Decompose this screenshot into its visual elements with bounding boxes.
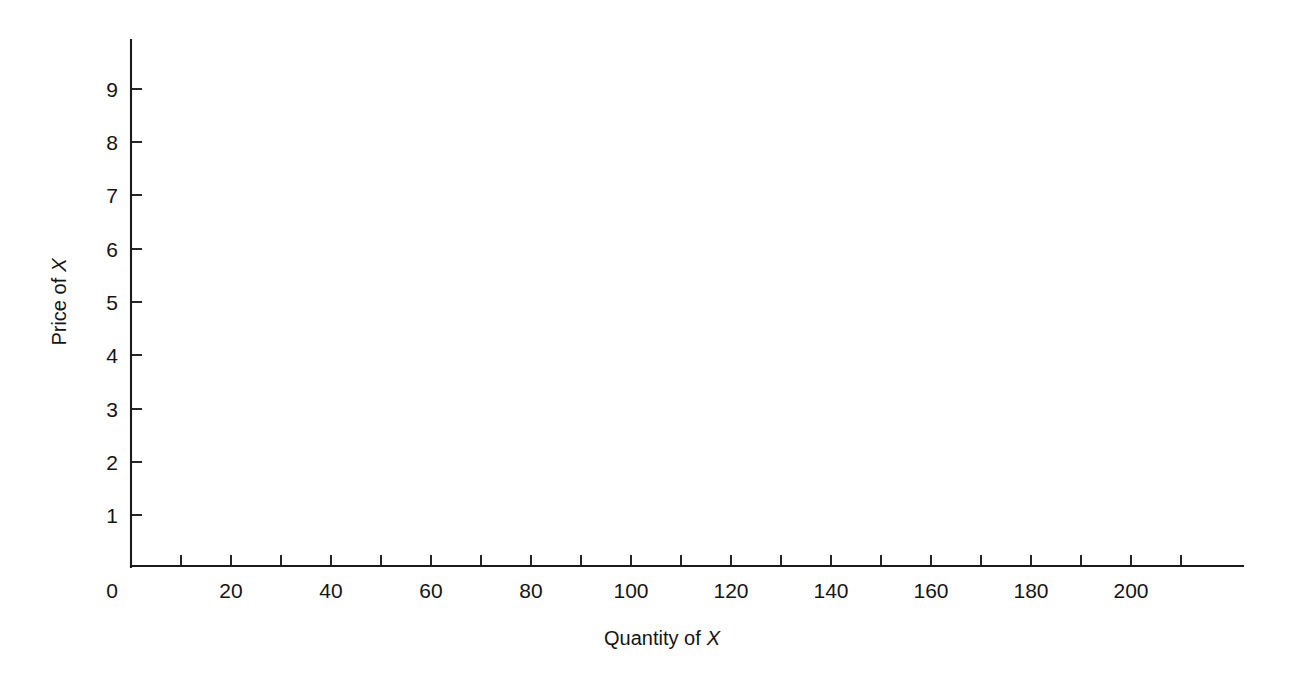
x-tick-label-160: 160 [913, 579, 948, 602]
x-tick-label-180: 180 [1013, 579, 1048, 602]
x-tick-label-140: 140 [813, 579, 848, 602]
y-tick-label-8: 8 [106, 131, 118, 154]
x-tick-label-20: 20 [219, 579, 242, 602]
x-axis-title-plain: Quantity of [604, 627, 701, 649]
chart-background [0, 0, 1300, 683]
y-tick-label-4: 4 [106, 344, 118, 367]
x-tick-label-100: 100 [613, 579, 648, 602]
y-axis-title: Price ofX [48, 258, 70, 346]
x-tick-label-60: 60 [419, 579, 442, 602]
x-tick-label-200: 200 [1113, 579, 1148, 602]
y-axis-title-text: Price ofX [48, 258, 70, 346]
y-tick-label-2: 2 [106, 451, 118, 474]
y-tick-label-1: 1 [106, 504, 118, 527]
chart-figure: 9 8 7 6 5 4 3 2 1 Price ofX [0, 0, 1300, 683]
x-tick-label-40: 40 [319, 579, 342, 602]
y-tick-label-5: 5 [106, 291, 118, 314]
x-axis-title-italic: X [706, 627, 721, 649]
x-tick-label-0: 0 [106, 579, 118, 602]
price-quantity-chart: 9 8 7 6 5 4 3 2 1 Price ofX [0, 0, 1300, 683]
y-tick-label-7: 7 [106, 184, 118, 207]
x-tick-label-120: 120 [713, 579, 748, 602]
y-axis-title-italic: X [48, 258, 70, 273]
y-tick-label-9: 9 [106, 78, 118, 101]
y-tick-label-6: 6 [106, 238, 118, 261]
x-tick-label-80: 80 [519, 579, 542, 602]
y-axis-title-plain: Price of [48, 277, 70, 345]
y-tick-label-3: 3 [106, 398, 118, 421]
